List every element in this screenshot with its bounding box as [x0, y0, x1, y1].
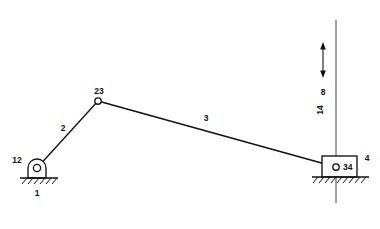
- label-guide-14: 14: [315, 105, 325, 115]
- diagram-canvas: 12 1 2 23 3 34 4 8 14: [0, 0, 380, 229]
- ground-pivot-support: [20, 159, 58, 184]
- label-link-1-ground: 1: [35, 188, 40, 198]
- label-joint-12: 12: [12, 155, 22, 165]
- label-link-2: 2: [61, 123, 66, 133]
- kinematic-diagram: 12 1 2 23 3 34 4 8 14: [0, 0, 380, 229]
- joint-12-pin: [33, 164, 40, 171]
- slider-block-support: [312, 156, 369, 183]
- joint-23-pin: [95, 98, 101, 104]
- joint-34-pin: [333, 164, 339, 170]
- label-arrow-8: 8: [321, 87, 326, 97]
- label-joint-23: 23: [94, 86, 104, 96]
- link-3-coupler: [98, 101, 336, 167]
- label-link-4: 4: [365, 153, 370, 163]
- label-joint-34: 34: [343, 162, 353, 172]
- motion-arrow: [320, 42, 326, 78]
- link-2-crank: [37, 101, 98, 168]
- label-link-3: 3: [204, 113, 209, 123]
